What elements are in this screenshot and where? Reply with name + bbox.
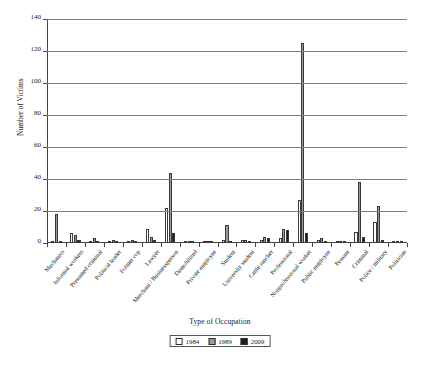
bar-group (51, 19, 61, 243)
bar-group (127, 19, 137, 243)
x-category-label: Lawyer (143, 248, 161, 267)
figure-container: Number of Victims 020406080100120140 Mec… (0, 0, 440, 368)
x-tick-mark (123, 243, 124, 247)
x-tick-mark (388, 243, 389, 247)
gridline (47, 211, 407, 212)
bar-group (354, 19, 364, 243)
y-tick-label: 100 (31, 77, 42, 85)
x-tick-mark (180, 243, 181, 247)
x-tick-mark (199, 243, 200, 247)
x-tick-mark (293, 243, 294, 247)
bar-group (70, 19, 80, 243)
bar-group (165, 19, 175, 243)
chart-legend: 1984 1989 2009 (170, 335, 271, 347)
bar-group (203, 19, 213, 243)
legend-item-2009: 2009 (241, 338, 265, 345)
bar-2009 (305, 233, 308, 243)
y-tick-label: 80 (34, 109, 41, 117)
x-category-label: Student (219, 248, 237, 267)
x-tick-mark (407, 243, 408, 247)
bar-group (373, 19, 383, 243)
bar-group (392, 19, 402, 243)
x-axis-category-labels: MechanicsInformal workersPresumed crimin… (47, 248, 407, 304)
bar-1989 (301, 43, 304, 243)
x-tick-mark (331, 243, 332, 247)
gridline (47, 83, 407, 84)
gridline (47, 19, 407, 20)
y-tick-label: 120 (31, 45, 42, 53)
legend-swatch-2009 (241, 338, 248, 345)
bar-group (317, 19, 327, 243)
bar-group (336, 19, 346, 243)
legend-item-1984: 1984 (176, 338, 200, 345)
x-tick-mark (104, 243, 105, 247)
x-axis-title: Type of Occupation (0, 317, 440, 326)
x-axis-ticks (47, 243, 407, 247)
y-tick-label: 0 (38, 237, 42, 245)
bar-2009 (172, 233, 175, 243)
gridline (47, 115, 407, 116)
bar-group (222, 19, 232, 243)
y-axis-title: Number of Victims (16, 122, 25, 136)
x-tick-mark (236, 243, 237, 247)
legend-label-2009: 2009 (251, 338, 265, 345)
bar-group (241, 19, 251, 243)
x-tick-mark (255, 243, 256, 247)
bar-group (146, 19, 156, 243)
x-tick-mark (47, 243, 48, 247)
y-tick-label: 20 (34, 205, 41, 213)
figure-caption (8, 360, 432, 368)
bar-group (89, 19, 99, 243)
x-tick-mark (350, 243, 351, 247)
x-tick-mark (312, 243, 313, 247)
x-tick-mark (161, 243, 162, 247)
x-category-label: Politician (386, 248, 407, 271)
bar-2009 (286, 230, 289, 243)
gridline (47, 147, 407, 148)
legend-item-1989: 1989 (208, 338, 232, 345)
x-tick-mark (85, 243, 86, 247)
bar-1989 (358, 182, 361, 243)
y-tick-label: 140 (31, 13, 42, 21)
y-tick-label: 40 (34, 173, 41, 181)
bar-1989 (55, 214, 58, 243)
x-tick-mark (142, 243, 143, 247)
legend-label-1984: 1984 (186, 338, 200, 345)
gridline (47, 179, 407, 180)
gridline (47, 51, 407, 52)
legend-swatch-1984 (176, 338, 183, 345)
x-tick-mark (369, 243, 370, 247)
x-category-label: Peasant (333, 248, 351, 267)
x-tick-mark (218, 243, 219, 247)
y-tick-label: 60 (34, 141, 41, 149)
bar-group (260, 19, 270, 243)
bar-group (279, 19, 289, 243)
legend-swatch-1989 (208, 338, 215, 345)
x-tick-mark (66, 243, 67, 247)
legend-label-1989: 1989 (218, 338, 232, 345)
bar-group (108, 19, 118, 243)
bars-layer (47, 19, 407, 243)
bar-group (298, 19, 308, 243)
bar-group (184, 19, 194, 243)
x-tick-mark (274, 243, 275, 247)
